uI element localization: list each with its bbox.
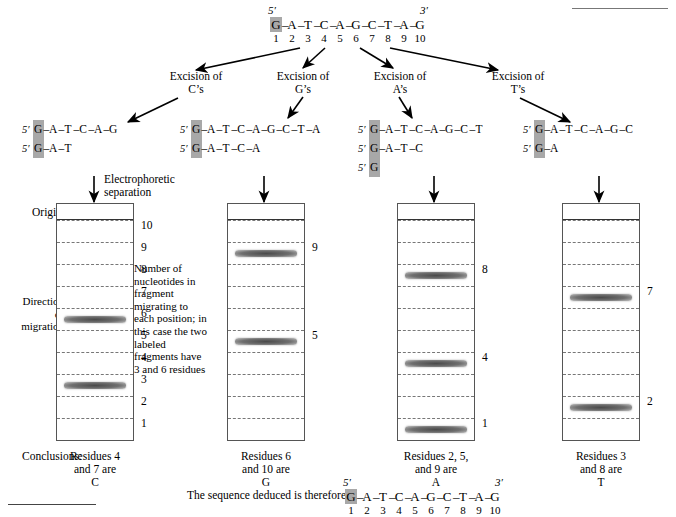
gel-lane-9[interactable]: 9: [57, 242, 133, 264]
fragment-base-4: C: [236, 139, 247, 158]
conclusion-t-line2: and 8 are: [551, 463, 651, 476]
base-9: A: [398, 17, 410, 32]
gel-lane-10[interactable]: [398, 220, 474, 242]
gel-lane-7[interactable]: 7: [563, 286, 639, 308]
gel-lane-7[interactable]: [228, 286, 304, 308]
fragment-base-3: T: [63, 120, 74, 139]
gel-lane-9[interactable]: [563, 242, 639, 264]
gel-lane-4[interactable]: 4: [398, 352, 474, 374]
lane-divider: [563, 396, 639, 397]
gel-lane-c[interactable]: 10987654321: [56, 203, 134, 441]
fragment-base-1: G: [33, 139, 44, 158]
fragment-five-prime-label: 5′: [523, 143, 531, 154]
fragment-base-2: A: [549, 120, 560, 139]
gel-lane-8[interactable]: [228, 264, 304, 286]
gel-lane-10[interactable]: 10: [57, 220, 133, 242]
fragment-list-c: 5′G–A–T–C–A–G5′G–A–T: [22, 120, 119, 158]
gel-lane-6[interactable]: [563, 308, 639, 330]
gel-lane-10[interactable]: [228, 220, 304, 242]
conclusion-c-line2: and 7 are: [45, 463, 145, 476]
gel-lane-a[interactable]: 841: [397, 203, 475, 441]
base-9: A: [473, 489, 485, 504]
gel-lane-6[interactable]: 6: [57, 308, 133, 330]
gel-lane-2[interactable]: [228, 396, 304, 418]
lane-divider: [228, 220, 304, 221]
fragment-base-1: G: [369, 158, 380, 177]
direction-line3: migration: [2, 320, 64, 333]
excision-c-line2: C’s: [141, 83, 251, 96]
lane-divider: [563, 242, 639, 243]
base-5: A: [334, 17, 346, 32]
gel-lane-1[interactable]: 1: [57, 418, 133, 440]
dna-band-1: [405, 426, 467, 433]
gel-lane-5[interactable]: [563, 330, 639, 352]
excision-label-t: Excision of T’s: [463, 70, 573, 95]
conclusion-c: Residues 4 and 7 are C: [45, 450, 145, 489]
position-number: 2: [284, 32, 300, 45]
gel-lane-4[interactable]: 4: [57, 352, 133, 374]
gel-lane-9[interactable]: [398, 242, 474, 264]
fragment-1: 5′G–A–T–C–A–G: [22, 120, 119, 139]
base-4: C: [393, 489, 405, 504]
lane-divider: [398, 286, 474, 287]
base-7: C: [441, 489, 453, 504]
gel-lane-3[interactable]: [228, 374, 304, 396]
gel-lane-7[interactable]: [398, 286, 474, 308]
gel-lane-2[interactable]: 2: [563, 396, 639, 418]
fragment-base-4: C: [579, 120, 590, 139]
gel-lane-7[interactable]: 7: [57, 286, 133, 308]
fragment-base-5: A: [251, 120, 262, 139]
gel-lane-1[interactable]: [563, 418, 639, 440]
gel-lane-8[interactable]: [563, 264, 639, 286]
gel-lane-5[interactable]: 5: [57, 330, 133, 352]
conclusion-t-line1: Residues 3: [551, 450, 651, 463]
lane-divider: [57, 286, 133, 287]
lane-divider: [57, 220, 133, 221]
gel-lane-4[interactable]: [228, 352, 304, 374]
fragment-base-1: G: [191, 120, 202, 139]
base-5: A: [409, 489, 421, 504]
fragment-base-2: A: [48, 120, 59, 139]
gel-lane-3[interactable]: 3: [57, 374, 133, 396]
gel-lane-8[interactable]: 8: [57, 264, 133, 286]
gel-lane-10[interactable]: [563, 220, 639, 242]
lane-divider: [228, 396, 304, 397]
position-number: 1: [268, 32, 284, 45]
gel-lane-8[interactable]: 8: [398, 264, 474, 286]
gel-lane-2[interactable]: 2: [57, 396, 133, 418]
base-6: G: [350, 17, 362, 32]
gel-lane-5[interactable]: 5: [228, 330, 304, 352]
gel-lane-g[interactable]: 95: [227, 203, 305, 441]
position-number: 3: [375, 504, 391, 517]
fragment-base-3: T: [399, 120, 410, 139]
gel-lane-9[interactable]: 9: [228, 242, 304, 264]
dna-band-6: [64, 316, 126, 323]
separation-line1: Electrophoretic: [104, 173, 175, 186]
deduced-sequence-numbers: 12345678910: [343, 504, 503, 517]
excision-t-line2: T’s: [463, 83, 573, 96]
gel-lane-t[interactable]: 72: [562, 203, 640, 441]
gel-lane-3[interactable]: [398, 374, 474, 396]
dna-band-3: [64, 382, 126, 389]
gel-lane-3[interactable]: [563, 374, 639, 396]
top-right-rule: [572, 8, 668, 9]
fragment-base-3: T: [399, 139, 410, 158]
conclusion-a-line1: Residues 2, 5,: [386, 450, 486, 463]
gel-lane-1[interactable]: [228, 418, 304, 440]
deduced-sequence-label: The sequence deduced is therefore:: [187, 489, 349, 501]
lane-divider: [563, 308, 639, 309]
gel-lane-1[interactable]: 1: [398, 418, 474, 440]
base-8: T: [382, 17, 394, 32]
position-number: 7: [439, 504, 455, 517]
lane-divider: [398, 418, 474, 419]
gel-lane-5[interactable]: [398, 330, 474, 352]
gel-lane-2[interactable]: [398, 396, 474, 418]
gel-lane-6[interactable]: [228, 308, 304, 330]
lane-number-1: 1: [482, 418, 488, 429]
conclusion-t: Residues 3 and 8 are T: [551, 450, 651, 489]
gel-lane-6[interactable]: [398, 308, 474, 330]
fragment-five-prime-label: 5′: [22, 124, 30, 135]
lane-divider: [228, 264, 304, 265]
five-prime-label: 5′: [268, 4, 276, 16]
gel-lane-4[interactable]: [563, 352, 639, 374]
